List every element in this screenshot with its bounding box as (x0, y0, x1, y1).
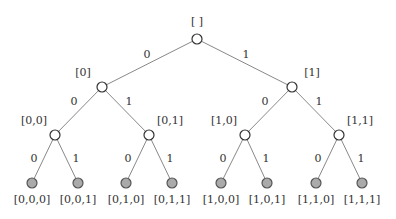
internal-node-n1 (287, 82, 297, 92)
node-label: [0,0,0] (14, 193, 51, 206)
node-label: [0,1,0] (108, 193, 145, 206)
leaf-node-n000 (27, 178, 37, 188)
tree-svg: 01010101010101 [ ][0][1][0,0][0,1][1,0][… (0, 0, 396, 219)
internal-node-n0 (97, 82, 107, 92)
node-label: [ ] (191, 15, 203, 28)
node-label: [1,1] (347, 114, 373, 127)
node-label: [0,0,1] (60, 193, 97, 206)
internal-node-n11 (334, 130, 344, 140)
edge-label: 1 (73, 152, 80, 165)
internal-node-n10 (240, 130, 250, 140)
edge-label: 1 (167, 152, 174, 165)
binary-tree-diagram: 01010101010101 [ ][0][1][0,0][0,1][1,0][… (0, 0, 396, 219)
leaf-node-n011 (167, 178, 177, 188)
leaf-node-n100 (216, 178, 226, 188)
node-label: [1] (304, 66, 320, 79)
edge-label: 1 (126, 95, 133, 108)
node-label: [1,0,1] (249, 193, 286, 206)
edge-root-n1 (197, 39, 292, 87)
edge-label: 1 (358, 152, 365, 165)
edge-label: 0 (220, 152, 227, 165)
leaf-node-n110 (311, 178, 321, 188)
edges-layer (32, 39, 362, 183)
edge-label: 1 (316, 95, 323, 108)
node-label: [0,1] (157, 114, 183, 127)
node-label: [0] (75, 66, 91, 79)
node-label: [1,0] (211, 114, 237, 127)
internal-node-n01 (144, 130, 154, 140)
node-label: [0,1,1] (154, 193, 191, 206)
edge-label: 0 (262, 95, 269, 108)
edge-label: 0 (315, 152, 322, 165)
edge-label: 0 (125, 152, 132, 165)
leaf-node-n001 (73, 178, 83, 188)
internal-node-n00 (50, 130, 60, 140)
node-label: [1,0,0] (203, 193, 240, 206)
edge-label: 0 (144, 48, 151, 61)
edge-n1-n10 (245, 87, 292, 135)
edge-label: 0 (71, 95, 78, 108)
edge-root-n0 (102, 39, 197, 87)
edge-label: 1 (243, 48, 250, 61)
leaf-node-n111 (357, 178, 367, 188)
edge-label: 1 (263, 152, 270, 165)
leaf-node-n010 (121, 178, 131, 188)
node-label: [1,1,0] (298, 193, 335, 206)
edge-n0-n00 (55, 87, 102, 135)
node-label: [0,0] (21, 114, 47, 127)
leaf-node-n101 (262, 178, 272, 188)
edge-label: 0 (31, 152, 38, 165)
internal-node-root (192, 34, 202, 44)
node-label: [1,1,1] (344, 193, 381, 206)
